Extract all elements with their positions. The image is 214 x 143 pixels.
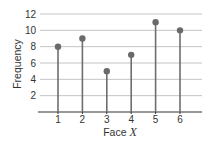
y-tick-label: 4 [30,74,36,85]
x-axis-ticks: 123456 [55,112,183,125]
stem-marker [177,27,183,33]
stem-marker [55,43,61,49]
gridlines [40,14,202,96]
x-tick-label: 3 [104,114,110,125]
stem-marker [152,19,158,25]
x-axis-label-text: Face [103,126,127,138]
y-tick-label: 6 [30,58,36,69]
stem-1 [55,43,61,112]
x-tick-label: 2 [80,114,86,125]
x-tick-label: 5 [153,114,159,125]
stem-5 [152,19,158,112]
stem-marker [104,68,110,74]
y-axis-label: Frequency [11,38,23,88]
x-axis-label: FaceX [103,125,137,139]
stem-3 [104,68,110,112]
data-stems [55,19,183,112]
x-tick-label: 1 [55,114,61,125]
y-tick-label: 8 [30,41,36,52]
stem-4 [128,52,134,112]
x-axis-variable: X [129,125,138,139]
y-tick-label: 12 [25,9,37,20]
y-tick-label: 2 [30,90,36,101]
stem-marker [79,35,85,41]
y-tick-label: 10 [25,25,37,36]
frequency-stem-chart: 24681012 123456 Frequency FaceX [0,0,214,143]
stem-6 [177,27,183,112]
x-tick-label: 6 [177,114,183,125]
y-axis-ticks: 24681012 [25,9,37,102]
x-tick-label: 4 [128,114,134,125]
stem-marker [128,52,134,58]
